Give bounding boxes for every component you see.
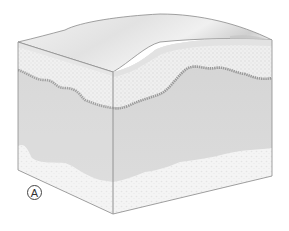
skin-block-diagram [0, 0, 289, 231]
panel-label-a: A [27, 185, 42, 200]
